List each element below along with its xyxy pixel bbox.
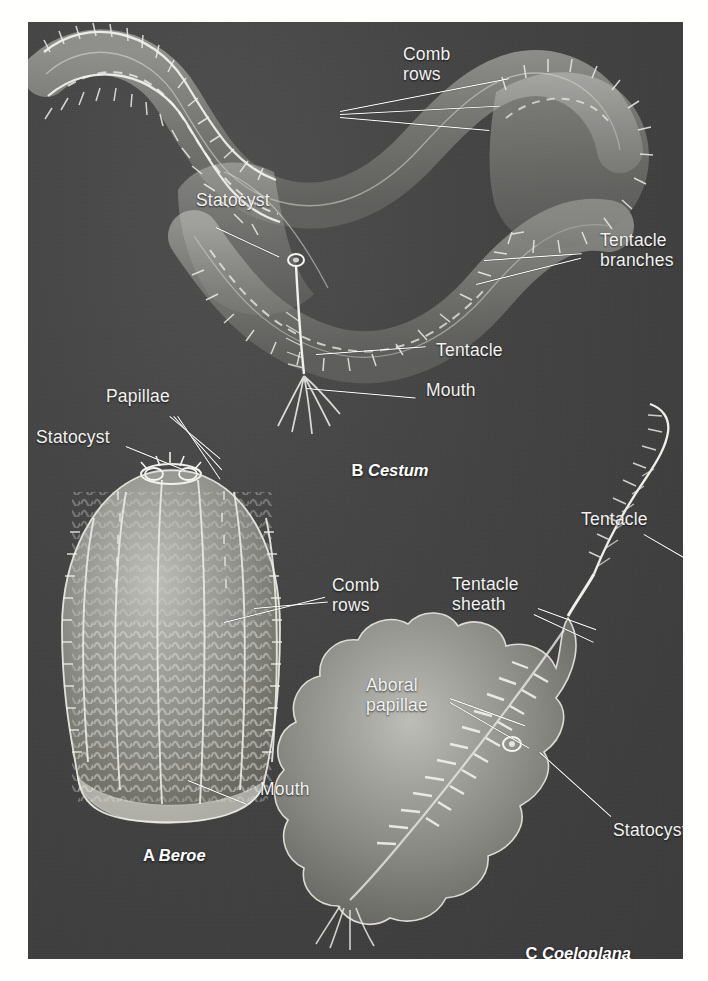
caption-cestum-letter: B: [352, 461, 369, 479]
beroe-illustration: [62, 452, 282, 823]
caption-cestum-taxon: Cestum: [368, 461, 429, 479]
illustration-plate: Comb rows Statocyst Tentacle branches Te…: [28, 22, 683, 959]
label-comb-rows-beroe: Comb rows: [332, 575, 379, 615]
caption-coeloplana-letter: C: [526, 944, 543, 959]
caption-beroe-taxon: Beroe: [159, 846, 206, 864]
label-tentacle-branches-cestum: Tentacle branches: [600, 230, 674, 270]
label-papillae-beroe: Papillae: [106, 386, 170, 406]
caption-cestum: B Cestum: [324, 442, 429, 499]
label-tentacle-cestum: Tentacle: [436, 340, 503, 360]
label-tentacle-coeloplana: Tentacle: [581, 509, 648, 529]
label-tentacle-sheath-coeloplana: Tentacle sheath: [452, 574, 519, 614]
label-statocyst-coeloplana: Statocyst: [613, 820, 683, 840]
caption-beroe: A Beroe: [116, 827, 206, 884]
cestum-illustration: [44, 23, 653, 434]
caption-coeloplana-taxon: Coeloplana: [542, 944, 631, 959]
label-mouth-cestum: Mouth: [426, 380, 476, 400]
caption-coeloplana: C Coeloplana: [498, 925, 631, 959]
label-mouth-beroe: Mouth: [260, 779, 310, 799]
label-statocyst-beroe: Statocyst: [36, 427, 110, 447]
caption-beroe-letter: A: [143, 846, 159, 864]
label-comb-rows-cestum: Comb rows: [403, 44, 450, 84]
figure-page: Comb rows Statocyst Tentacle branches Te…: [0, 0, 708, 981]
label-statocyst-cestum: Statocyst: [196, 190, 270, 210]
label-aboral-papillae-coeloplana: Aboral papillae: [366, 675, 428, 715]
